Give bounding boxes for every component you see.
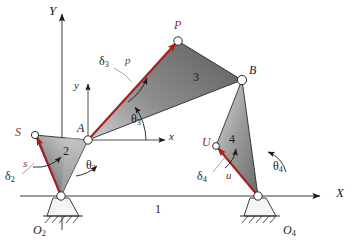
joint-label-b: B xyxy=(249,64,256,76)
joint-label-o4-sub: 4 xyxy=(292,229,296,238)
angle-label-delta4: δ4 xyxy=(197,170,207,184)
link-4-polygon xyxy=(216,80,258,196)
angle-label-theta2-sub: 2 xyxy=(92,164,96,173)
local-x-axis-label: x xyxy=(169,131,174,142)
joint-o4 xyxy=(254,192,262,200)
angle-label-delta3: δ3 xyxy=(99,55,109,69)
joint-label-o2: O2 xyxy=(33,224,46,238)
joint-label-o2-base: O xyxy=(33,223,42,237)
local-y-axis-label: y xyxy=(74,80,79,91)
support-o2-triangle xyxy=(47,198,79,216)
joint-a xyxy=(84,136,92,144)
joint-label-u: U xyxy=(202,136,211,148)
joint-label-p: P xyxy=(174,19,181,31)
leader-delta4 xyxy=(213,155,227,172)
joint-s xyxy=(31,131,38,138)
angle-label-theta3-sub: 3 xyxy=(137,118,141,127)
joint-label-s: S xyxy=(15,126,21,138)
vector-label-s: s xyxy=(23,158,27,169)
angle-label-theta4-sub: 4 xyxy=(279,165,283,174)
link-label-2: 2 xyxy=(63,145,69,157)
angle-label-delta4-sub: 4 xyxy=(203,175,207,184)
support-o4-hatching xyxy=(242,216,276,223)
joint-label-o4-base: O xyxy=(283,223,292,237)
joint-label-o2-sub: 2 xyxy=(42,229,46,238)
angle-label-delta2-sub: 2 xyxy=(11,175,15,184)
global-y-axis-label: Y xyxy=(49,4,56,17)
link-label-3: 3 xyxy=(193,71,199,83)
angle-label-theta3: θ3 xyxy=(131,113,141,127)
link-label-1: 1 xyxy=(155,203,161,215)
joint-b xyxy=(237,75,246,84)
angle-label-theta2: θ2 xyxy=(86,159,96,173)
linkage-diagram-svg xyxy=(0,0,355,247)
figure-canvas: Y X x y A B P S U O2 O4 1 2 3 4 s p u θ2… xyxy=(0,0,355,247)
link-2-body xyxy=(35,135,88,196)
support-o4-triangle xyxy=(244,198,276,216)
joint-label-o4: O4 xyxy=(283,224,296,238)
joint-u xyxy=(213,143,220,150)
angle-label-delta3-sub: 3 xyxy=(105,60,109,69)
angle-label-delta2: δ2 xyxy=(5,170,15,184)
joint-label-a: A xyxy=(77,122,84,134)
joint-p xyxy=(174,37,182,45)
joint-o2 xyxy=(57,192,65,200)
angle-label-theta4: θ4 xyxy=(273,160,283,174)
vector-label-p: p xyxy=(125,55,131,66)
vector-label-u: u xyxy=(226,170,232,181)
link-label-4: 4 xyxy=(229,133,235,145)
leader-delta3 xyxy=(114,68,132,82)
global-x-axis-label: X xyxy=(336,186,344,199)
link-4-body xyxy=(216,80,258,196)
